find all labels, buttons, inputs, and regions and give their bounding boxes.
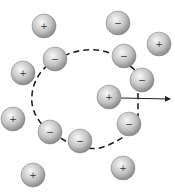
- cation-ion: +: [21, 163, 45, 187]
- ion-charge-sign: +: [29, 170, 37, 180]
- ion-charge-sign: +: [155, 39, 163, 49]
- ion-charge-sign: −: [46, 127, 54, 137]
- anion-ion: −: [38, 120, 62, 144]
- ion-charge-sign: +: [19, 68, 27, 78]
- cation-ion: +: [32, 14, 56, 38]
- anion-ion: −: [130, 68, 154, 92]
- anion-ion: −: [106, 11, 130, 35]
- velocity-arrow: [121, 98, 170, 99]
- ion-charge-sign: −: [138, 75, 146, 85]
- ion-atmosphere-diagram: +−+−−+−++−−−++: [0, 0, 175, 195]
- anion-ion: −: [117, 112, 141, 136]
- ion-charge-sign: +: [119, 163, 127, 173]
- ion-charge-sign: −: [51, 54, 59, 64]
- cation-ion: +: [97, 85, 121, 109]
- cation-ion: +: [11, 61, 35, 85]
- cation-ion: +: [111, 156, 135, 180]
- anion-ion: −: [68, 129, 92, 153]
- ion-charge-sign: +: [105, 92, 113, 102]
- ion-charge-sign: +: [40, 21, 48, 31]
- ion-charge-sign: +: [9, 114, 17, 124]
- ion-charge-sign: −: [114, 18, 122, 28]
- ion-charge-sign: −: [125, 119, 133, 129]
- anion-ion: −: [112, 44, 136, 68]
- ion-charge-sign: −: [120, 51, 128, 61]
- ion-charge-sign: −: [76, 136, 84, 146]
- cation-ion: +: [1, 107, 25, 131]
- anion-ion: −: [43, 47, 67, 71]
- cation-ion: +: [147, 32, 171, 56]
